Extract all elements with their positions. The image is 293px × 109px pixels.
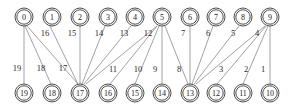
graph-node-5[interactable]: 5 — [153, 8, 171, 26]
edge-label-17: 17 — [59, 63, 68, 73]
edge-label-3: 3 — [219, 64, 223, 74]
edge-label-2: 2 — [244, 64, 248, 74]
graph-node-9[interactable]: 9 — [261, 8, 279, 26]
graph-node-1[interactable]: 1 — [43, 8, 61, 26]
node-label-6: 6 — [188, 13, 192, 22]
edge-label-10: 10 — [134, 64, 143, 74]
graph-node-3[interactable]: 3 — [99, 8, 117, 26]
graph-node-12[interactable]: 12 — [207, 84, 225, 102]
node-label-19: 19 — [20, 89, 28, 98]
edge-label-18: 18 — [37, 63, 46, 73]
edge-label-9: 9 — [153, 64, 157, 74]
graph-node-18[interactable]: 18 — [43, 84, 61, 102]
graph-node-4[interactable]: 4 — [126, 8, 144, 26]
graph-node-16[interactable]: 16 — [99, 84, 117, 102]
graph-node-11[interactable]: 11 — [234, 84, 252, 102]
node-label-14: 14 — [158, 89, 166, 98]
edge-label-14: 14 — [95, 28, 104, 38]
bipartite-graph: 19181716151413121110987654321 0123456789… — [0, 0, 293, 109]
node-label-17: 17 — [76, 89, 84, 98]
graph-node-8[interactable]: 8 — [234, 8, 252, 26]
node-label-13: 13 — [186, 89, 194, 98]
edge-label-12: 12 — [144, 28, 153, 38]
node-label-7: 7 — [214, 13, 218, 22]
graph-node-2[interactable]: 2 — [71, 8, 89, 26]
node-label-4: 4 — [133, 13, 137, 22]
node-label-0: 0 — [22, 13, 26, 22]
edge-label-4: 4 — [255, 28, 260, 38]
edge-labels-group: 19181716151413121110987654321 — [13, 28, 265, 74]
graph-node-14[interactable]: 14 — [153, 84, 171, 102]
edge-label-11: 11 — [109, 64, 117, 74]
edge-label-13: 13 — [120, 28, 129, 38]
graph-node-6[interactable]: 6 — [181, 8, 199, 26]
diagram-canvas: 19181716151413121110987654321 0123456789… — [0, 0, 293, 109]
edge-label-6: 6 — [206, 28, 210, 38]
graph-node-7[interactable]: 7 — [207, 8, 225, 26]
edge-label-1: 1 — [261, 64, 265, 74]
graph-node-0[interactable]: 0 — [15, 8, 33, 26]
graph-node-10[interactable]: 10 — [261, 84, 279, 102]
node-label-2: 2 — [78, 13, 82, 22]
node-label-11: 11 — [239, 89, 247, 98]
node-label-18: 18 — [48, 89, 56, 98]
edge-label-15: 15 — [68, 28, 77, 38]
node-label-15: 15 — [131, 89, 139, 98]
node-label-12: 12 — [212, 89, 220, 98]
edge-label-7: 7 — [181, 28, 185, 38]
node-label-9: 9 — [268, 13, 272, 22]
graph-node-17[interactable]: 17 — [71, 84, 89, 102]
node-label-5: 5 — [160, 13, 164, 22]
edge-label-8: 8 — [177, 64, 181, 74]
edge-label-5: 5 — [231, 28, 235, 38]
node-label-8: 8 — [241, 13, 245, 22]
node-label-1: 1 — [50, 13, 54, 22]
graph-node-15[interactable]: 15 — [126, 84, 144, 102]
edge-label-19: 19 — [13, 63, 22, 73]
node-label-16: 16 — [104, 89, 112, 98]
graph-node-13[interactable]: 13 — [181, 84, 199, 102]
node-label-10: 10 — [266, 89, 274, 98]
node-label-3: 3 — [106, 13, 110, 22]
graph-node-19[interactable]: 19 — [15, 84, 33, 102]
edge-label-16: 16 — [41, 28, 50, 38]
